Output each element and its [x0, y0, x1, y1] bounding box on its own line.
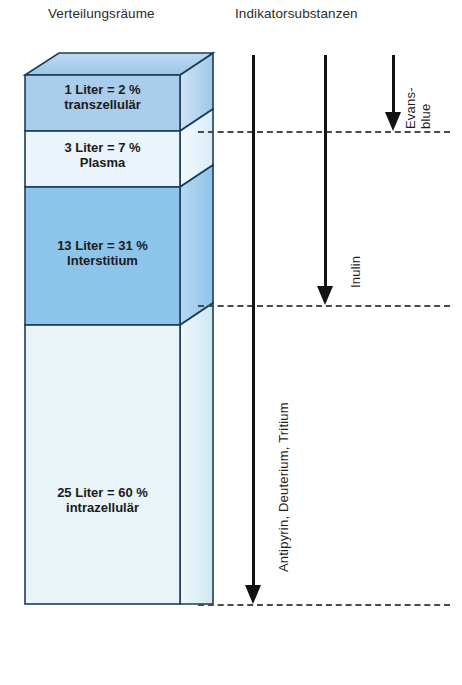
dashed-line-interstitium-level	[198, 305, 450, 307]
side-face-intrazellulaer	[180, 303, 213, 604]
arrow-shaft-inulin	[324, 55, 327, 289]
arrow-label-evans-blue-line1: Evans-	[404, 87, 419, 129]
front-face-intrazellulaer	[25, 325, 180, 604]
front-face-transzellulaer	[25, 75, 180, 131]
arrow-label-evans-blue-line2: blue	[419, 87, 434, 129]
arrow-head-inulin	[317, 286, 333, 305]
arrow-label-antipyrin: Antipyrin, Deuterium, Tritium	[276, 402, 291, 572]
arrow-head-evans-blue	[385, 112, 401, 131]
arrow-head-antipyrin	[245, 585, 261, 604]
arrow-shaft-antipyrin	[252, 55, 255, 588]
side-face-interstitium	[180, 165, 213, 325]
arrow-label-evans-blue: Evans- blue	[404, 87, 433, 129]
diagram-canvas: Verteilungsräume Indikatorsubstanzen	[0, 0, 462, 685]
arrow-label-inulin: Inulin	[348, 256, 363, 288]
front-face-interstitium	[25, 187, 180, 325]
dashed-line-intrazellulaer-level	[198, 604, 450, 606]
arrow-shaft-evans-blue	[392, 55, 395, 115]
compartment-prism	[0, 0, 240, 640]
top-face-lid	[25, 53, 213, 75]
front-face-plasma	[25, 131, 180, 187]
prism-svg	[0, 0, 240, 640]
column-header-indikatorsubstanzen: Indikatorsubstanzen	[235, 6, 358, 21]
